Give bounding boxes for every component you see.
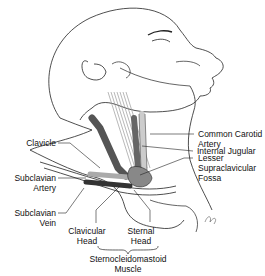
label-text: Common Carotid bbox=[198, 129, 262, 139]
common-carotid-artery bbox=[142, 114, 144, 170]
label-text: Clavicular bbox=[62, 226, 112, 236]
label-text: Head bbox=[118, 236, 164, 246]
label-text: Clavicle bbox=[18, 138, 56, 148]
label-text: Supraclavicular bbox=[198, 163, 256, 173]
mouth bbox=[176, 61, 200, 66]
ear bbox=[82, 61, 106, 80]
label-text: Vein bbox=[6, 218, 56, 228]
label-text: Artery bbox=[6, 183, 56, 193]
label-text: Sternocleidomastoid bbox=[78, 254, 178, 264]
vessel-junction bbox=[128, 166, 152, 186]
label-lesser-supraclavicular-fossa: Lesser Supraclavicular Fossa bbox=[198, 153, 256, 183]
label-text: Lesser bbox=[198, 153, 256, 163]
muscle-brace bbox=[98, 246, 158, 254]
label-text: Fossa bbox=[198, 173, 256, 183]
label-text: Subclavian bbox=[6, 173, 56, 183]
jawline bbox=[120, 68, 190, 86]
cheek-line bbox=[112, 62, 130, 78]
internal-jugular-vein bbox=[134, 118, 138, 168]
label-subclavian-vein: Subclavian Vein bbox=[6, 208, 56, 228]
label-subclavian-artery: Subclavian Artery bbox=[6, 173, 56, 193]
label-text: Sternal bbox=[118, 226, 164, 236]
artist-signature bbox=[205, 217, 216, 224]
external-jugular-vein bbox=[92, 118, 126, 176]
eyebrow bbox=[148, 31, 172, 35]
clavicle-bone-lower bbox=[44, 168, 176, 195]
label-clavicular-head: Clavicular Head bbox=[62, 226, 112, 246]
label-text: Head bbox=[62, 236, 112, 246]
label-sternal-head: Sternal Head bbox=[118, 226, 164, 246]
subclavian-vein-vessel bbox=[86, 182, 130, 186]
label-text: Muscle bbox=[78, 264, 178, 274]
label-text: Subclavian bbox=[6, 208, 56, 218]
label-sternocleidomastoid-muscle: Sternocleidomastoid Muscle bbox=[78, 254, 178, 274]
label-clavicle: Clavicle bbox=[18, 138, 56, 148]
eye bbox=[152, 39, 170, 42]
